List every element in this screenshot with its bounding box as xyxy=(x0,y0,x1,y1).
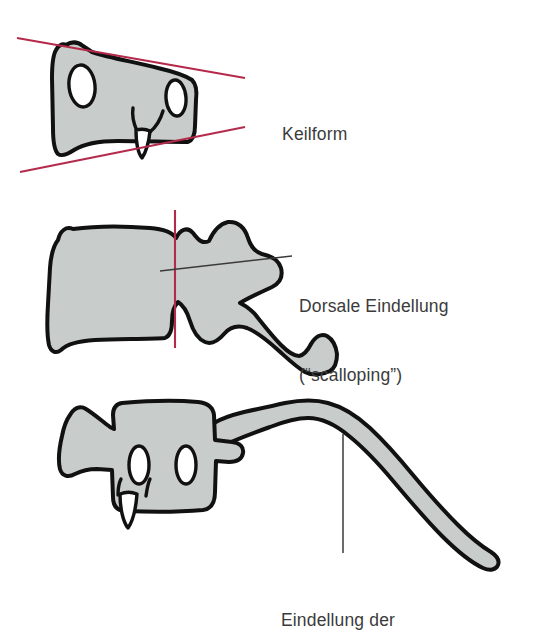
label-scalloping-line-2: (“scalloping”) xyxy=(299,364,449,387)
vascular-foramen-right xyxy=(165,79,187,116)
panel-scalloping xyxy=(47,210,337,375)
label-eindellung-der-rippe: Eindellung der Rippe (“penciling”) xyxy=(281,562,427,638)
anatomical-figure: Keilform Dorsale Eindellung (“scalloping… xyxy=(0,0,541,638)
vertebra-scalloping-outline xyxy=(47,222,337,375)
vertebra-penciling-outline xyxy=(59,401,243,512)
vertebra-foramen-right xyxy=(176,446,196,484)
label-scalloping-line-1: Dorsale Eindellung xyxy=(299,295,449,318)
label-penciling-line-1: Eindellung der xyxy=(281,609,427,632)
label-keilform: Keilform xyxy=(262,100,347,170)
figure-canvas xyxy=(0,0,541,638)
penciling-spinous-tip xyxy=(120,493,137,529)
vertebra-foramen-left xyxy=(129,446,149,484)
label-dorsale-eindellung: Dorsale Eindellung (“scalloping”) xyxy=(299,248,449,434)
panel-wedge xyxy=(17,38,245,172)
spinous-process-tip xyxy=(136,129,150,158)
label-keilform-text: Keilform xyxy=(282,124,347,144)
